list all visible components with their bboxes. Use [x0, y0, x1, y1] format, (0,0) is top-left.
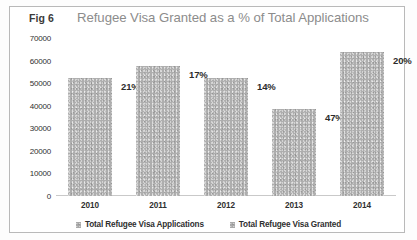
bar-applications	[136, 66, 180, 196]
bar-group: 17%	[136, 38, 180, 196]
bar-percentage-label: 20%	[393, 55, 412, 66]
y-axis-tick-label: 60000	[30, 56, 51, 65]
chart-header: Fig 6 Refugee Visa Granted as a % of Tot…	[0, 10, 417, 32]
chart-legend: Total Refugee Visa ApplicationsTotal Ref…	[0, 220, 417, 229]
x-axis-tick-label: 2013	[272, 201, 316, 210]
bar-applications	[272, 109, 316, 196]
plot-area: 700006000050000400003000020000100000 21%…	[56, 38, 396, 196]
figure-number-label: Fig 6	[29, 12, 54, 24]
y-axis-tick-label: 50000	[30, 79, 51, 88]
bar-applications	[204, 78, 248, 196]
x-axis-tick-label: 2014	[340, 201, 384, 210]
bar-group: 14%	[204, 38, 248, 196]
y-axis-tick-label: 0	[47, 192, 51, 201]
bar-group: 21%	[68, 38, 112, 196]
bar-applications	[340, 52, 384, 196]
legend-label: Total Refugee Visa Granted	[239, 220, 341, 229]
y-axis-tick-label: 20000	[30, 146, 51, 155]
bar-group: 20%	[340, 38, 384, 196]
y-axis-tick-label: 40000	[30, 101, 51, 110]
legend-swatch-icon	[230, 222, 235, 228]
legend-item: Total Refugee Visa Applications	[76, 220, 204, 229]
legend-item: Total Refugee Visa Granted	[230, 220, 341, 229]
y-axis-tick-label: 30000	[30, 124, 51, 133]
bar-group: 47%	[272, 38, 316, 196]
chart-figure: Fig 6 Refugee Visa Granted as a % of Tot…	[0, 0, 417, 240]
chart-title: Refugee Visa Granted as a % of Total App…	[77, 10, 369, 25]
x-axis-tick-label: 2012	[204, 201, 248, 210]
legend-swatch-icon	[76, 222, 81, 228]
y-axis-tick-label: 10000	[30, 169, 51, 178]
x-axis-tick-label: 2011	[136, 201, 180, 210]
legend-label: Total Refugee Visa Applications	[85, 220, 204, 229]
bar-applications	[68, 78, 112, 196]
y-axis-tick-label: 70000	[30, 34, 51, 43]
x-axis-tick-label: 2010	[68, 201, 112, 210]
